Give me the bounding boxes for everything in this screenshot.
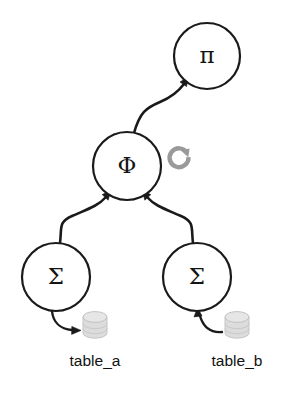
node-phi-join[interactable]: Φ [93, 132, 161, 200]
database-cylinder-table-b [225, 312, 249, 339]
node-sigma-left-glyph: Σ [48, 263, 64, 289]
edge-phi-to-pi [134, 77, 188, 133]
database-cylinder-table-a [83, 312, 107, 339]
table-a-label: table_a [70, 352, 121, 369]
table-b-label: table_b [212, 352, 263, 369]
node-sigma-left-scan[interactable]: Σ [22, 243, 90, 311]
edge-sigma-left-to-phi [60, 191, 111, 243]
node-pi-glyph: π [199, 42, 214, 68]
edge-sigma-left-to-table-a [52, 311, 81, 334]
node-sigma-right-glyph: Σ [189, 263, 205, 289]
plan-canvas: π Φ Σ Σ table_a table_b [0, 0, 292, 394]
refresh-icon[interactable] [170, 148, 190, 167]
node-pi-projection[interactable]: π [174, 23, 240, 89]
edge-sigma-right-to-phi [142, 191, 193, 243]
query-plan-diagram: π Φ Σ Σ table_a table_b [0, 0, 292, 394]
node-sigma-right-scan[interactable]: Σ [163, 243, 231, 311]
node-phi-glyph: Φ [118, 152, 137, 178]
